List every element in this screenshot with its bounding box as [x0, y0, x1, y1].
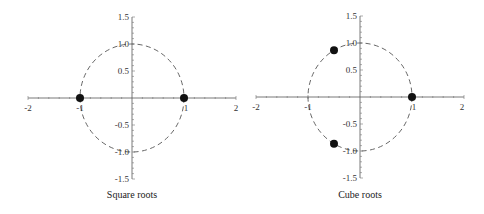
root-point: [330, 46, 338, 54]
plot-square-roots: -2 -1 1 2 1.5 1.0 0.5 -0.5 -1.0 -1.5 Squ…: [24, 12, 238, 200]
root-point: [330, 140, 338, 148]
y-tick-label: -0.5: [343, 119, 358, 129]
x-tick-label: -1: [304, 102, 312, 112]
y-tick-label: -1.5: [115, 174, 130, 184]
x-tick-label: 1: [184, 103, 189, 113]
plot-cube-roots: -2 -1 1 2 1.5 1.0 0.5 -0.5 -1.0 -1.5 Cub…: [252, 11, 464, 200]
root-point: [408, 93, 416, 101]
root-point: [180, 94, 188, 102]
y-tick-label: 1.5: [118, 12, 130, 22]
y-tick-label: -1.0: [343, 146, 358, 156]
y-tick-label: 1.5: [346, 11, 358, 21]
x-tick-label: -1: [76, 103, 84, 113]
x-tick-label: 2: [460, 102, 465, 112]
roots-of-unity-figure: -2 -1 1 2 1.5 1.0 0.5 -0.5 -1.0 -1.5 Squ…: [0, 0, 484, 214]
x-tick-label: 2: [234, 103, 239, 113]
y-tick-label: -0.5: [115, 120, 130, 130]
x-tick-label: -2: [24, 103, 32, 113]
y-tick-label: -1.0: [115, 147, 130, 157]
y-tick-label: 0.5: [118, 66, 130, 76]
caption-square-roots: Square roots: [107, 189, 157, 200]
x-tick-label: -2: [252, 102, 260, 112]
x-tick-label: 1: [412, 102, 417, 112]
caption-cube-roots: Cube roots: [338, 189, 382, 200]
y-tick-label: 0.5: [346, 65, 358, 75]
y-tick-label: 1.0: [346, 38, 358, 48]
y-tick-label: 1.0: [118, 39, 130, 49]
y-tick-label: -1.5: [343, 173, 358, 183]
root-point: [76, 94, 84, 102]
